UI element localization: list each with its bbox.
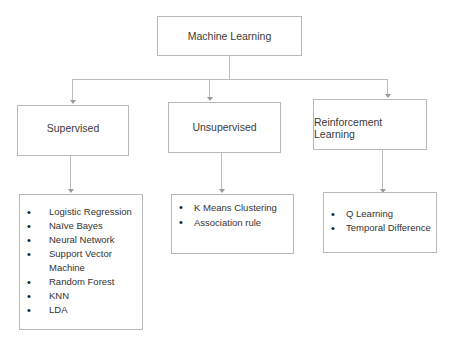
connector-to-supervised [72, 79, 73, 101]
connector-root-down [229, 56, 230, 80]
connector-supervised-down [70, 156, 71, 190]
connector-horizontal [72, 79, 388, 80]
node-supervised-label: Supervised [47, 122, 100, 134]
connector-to-reinforcement [387, 79, 388, 95]
arrow-to-supervised-icon [70, 100, 76, 104]
node-reinforcement-label: Reinforcement Learning [314, 116, 426, 140]
list-item: Association rule [172, 215, 293, 230]
list-item: Q Learning [324, 207, 436, 221]
reinforcement-algorithms-list: Q Learning Temporal Difference [323, 192, 437, 253]
connector-reinforcement-down [382, 150, 383, 190]
arrow-to-unsupervised-list-icon [219, 189, 225, 193]
list-item: KNN [20, 289, 142, 303]
connector-to-unsupervised [209, 79, 210, 98]
list-item: Naïve Bayes [20, 219, 142, 233]
arrow-to-unsupervised-icon [207, 97, 213, 101]
list-item: Support Vector Machine [20, 247, 142, 275]
arrow-to-reinforcement-icon [385, 94, 391, 98]
node-unsupervised-label: Unsupervised [192, 121, 256, 133]
node-unsupervised: Unsupervised [168, 102, 281, 153]
list-item: Neural Network [20, 233, 142, 247]
root-node-label: Machine Learning [188, 30, 271, 42]
connector-unsupervised-down [221, 153, 222, 190]
list-item: Temporal Difference [324, 221, 436, 235]
list-item: Random Forest [20, 275, 142, 289]
supervised-algorithms-list: Logistic Regression Naïve Bayes Neural N… [19, 194, 143, 330]
root-node-machine-learning: Machine Learning [157, 16, 302, 56]
unsupervised-algorithms-list: K Means Clustering Association rule [171, 194, 294, 254]
node-supervised: Supervised [17, 105, 129, 156]
arrow-to-supervised-list-icon [68, 189, 74, 193]
list-item: LDA [20, 303, 142, 317]
node-reinforcement-learning: Reinforcement Learning [313, 99, 427, 150]
list-item: K Means Clustering [172, 200, 293, 215]
list-item: Logistic Regression [20, 205, 142, 219]
